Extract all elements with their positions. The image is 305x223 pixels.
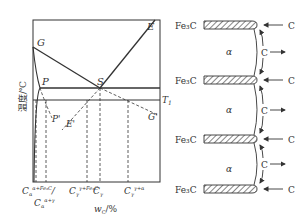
point-e-prime-label: E' xyxy=(65,119,75,129)
diagram-canvas: G E P S P' E' G' T1 温度/℃ Cαα+Fe₃C/ Cαα+γ… xyxy=(0,0,305,223)
diagram-frame xyxy=(33,20,160,182)
tick-c-alpha-gamma: Cαα+γ xyxy=(34,197,55,209)
tick-c-gamma: Cγ xyxy=(93,186,103,198)
svg-text:C: C xyxy=(261,48,268,58)
interface-curve-3 xyxy=(254,143,257,185)
alpha-label-1: α xyxy=(226,47,232,57)
interface-curve-2 xyxy=(254,84,257,135)
alpha-label-3: α xyxy=(226,164,232,174)
plate-2-label: Fe₃C xyxy=(175,76,197,86)
x-tick-labels: Cαα+Fe₃C/ Cαα+γ Cγγ+Fe₃C Cγ Cγγ+α xyxy=(22,185,145,209)
fe3c-plate-2: Fe₃C xyxy=(175,76,257,86)
gp-curve xyxy=(33,47,40,182)
y-axis-label: 温度/℃ xyxy=(17,81,28,112)
point-e-label: E xyxy=(146,21,155,32)
svg-text:C: C xyxy=(288,76,295,86)
carbon-inflow-arrows: C C C C xyxy=(264,21,295,195)
growth-schematic: Fe₃C Fe₃C Fe₃C Fe₃C α α α C C xyxy=(175,21,295,195)
plate-1-label: Fe₃C xyxy=(175,21,197,31)
point-p-prime-label: P' xyxy=(51,114,61,124)
carbon-outflow-arrows: C C C xyxy=(261,48,285,170)
svg-text:C: C xyxy=(288,21,295,31)
phase-diagram: G E P S P' E' G' T1 温度/℃ Cαα+Fe₃C/ Cαα+γ… xyxy=(17,20,172,215)
svg-text:C: C xyxy=(288,185,295,195)
fe3c-plate-3: Fe₃C xyxy=(175,135,257,145)
point-s-label: S xyxy=(97,76,104,87)
point-g-prime-label: G' xyxy=(148,112,158,122)
svg-text:C: C xyxy=(261,160,268,170)
fe3c-plate-4: Fe₃C xyxy=(175,185,257,195)
x-axis-label: wC/% xyxy=(94,204,118,215)
svg-text:C: C xyxy=(261,106,268,116)
plate-4-label: Fe₃C xyxy=(175,185,197,195)
t1-label: T1 xyxy=(162,95,172,106)
point-g-label: G xyxy=(37,37,45,48)
tick-c-alpha-fe3c: Cαα+Fe₃C/ xyxy=(22,185,56,197)
point-p-label: P xyxy=(41,76,49,87)
svg-text:C: C xyxy=(288,135,295,145)
fe3c-plate-1: Fe₃C xyxy=(175,21,257,31)
tick-c-gamma-alpha: Cγγ+α xyxy=(124,185,145,198)
alpha-label-2: α xyxy=(226,105,232,115)
gs-extrapolation xyxy=(100,88,158,115)
interface-curve-1 xyxy=(254,29,257,76)
plate-3-label: Fe₃C xyxy=(175,135,197,145)
